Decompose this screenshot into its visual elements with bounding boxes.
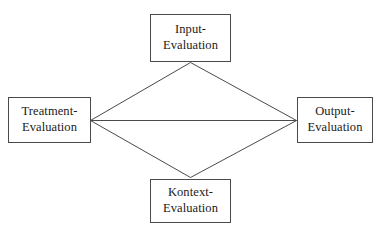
input-evaluation-label-line2: Evaluation [163, 38, 218, 54]
edge-input-to-output [191, 63, 297, 121]
input-evaluation-node[interactable]: Input- Evaluation [150, 14, 231, 62]
kontext-evaluation-node[interactable]: Kontext- Evaluation [150, 179, 231, 223]
input-evaluation-label-line1: Input- [175, 22, 206, 38]
diagram-canvas: Input- Evaluation Treatment- Evaluation … [0, 0, 382, 237]
kontext-evaluation-label-line1: Kontext- [168, 185, 213, 201]
edge-treatment-to-input [91, 63, 191, 121]
treatment-evaluation-label-line2: Evaluation [22, 120, 77, 136]
treatment-evaluation-node[interactable]: Treatment- Evaluation [8, 97, 91, 143]
output-evaluation-label-line1: Output- [315, 104, 355, 120]
output-evaluation-node[interactable]: Output- Evaluation [297, 97, 373, 143]
edge-treatment-to-kontext [91, 121, 191, 178]
kontext-evaluation-label-line2: Evaluation [163, 201, 218, 217]
output-evaluation-label-line2: Evaluation [307, 120, 362, 136]
edge-kontext-to-output [191, 121, 297, 178]
treatment-evaluation-label-line1: Treatment- [21, 104, 77, 120]
